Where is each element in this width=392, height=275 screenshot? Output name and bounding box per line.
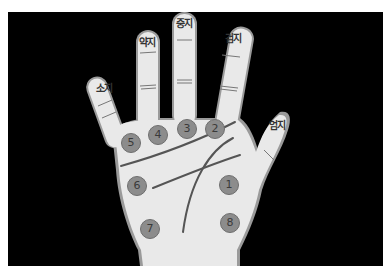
point-marker-5: 5 — [121, 133, 141, 153]
point-marker-6: 6 — [127, 176, 147, 196]
finger-label-ring: 약지 — [139, 34, 156, 49]
finger-label-middle: 중지 — [176, 15, 193, 30]
point-marker-4: 4 — [148, 125, 168, 145]
point-marker-8: 8 — [220, 213, 240, 233]
point-marker-3: 3 — [177, 119, 197, 139]
finger-label-pinky: 소지 — [96, 80, 113, 95]
point-marker-7: 7 — [140, 219, 160, 239]
hand-illustration — [8, 12, 383, 266]
hand-diagram-panel: 소지 약지 중지 검지 엄지 1 2 3 4 5 6 7 8 — [8, 12, 383, 266]
finger-label-index: 검지 — [225, 30, 242, 45]
point-marker-2: 2 — [205, 119, 225, 139]
point-marker-1: 1 — [219, 175, 239, 195]
finger-label-thumb: 엄지 — [269, 117, 286, 132]
